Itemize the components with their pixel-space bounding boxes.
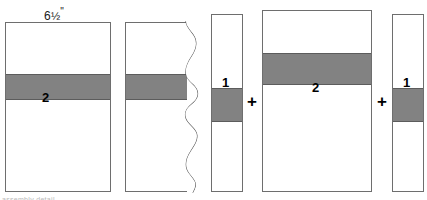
plus-operator-first: + [247,93,257,110]
break-edge-fill-mask [178,21,204,193]
band-layer-1-left [212,88,242,122]
dimension-fraction: ½ [51,10,60,22]
panel-layer-strip-one-right [392,14,424,192]
panel-layer-strip-two [262,10,372,192]
construction-layer-diagram: 6½" 2 1 + 2 + 1 assembly detail [0,0,427,200]
panel-layer-strip-one-left [211,14,243,192]
dimension-label-6-half-inch: 6½" [44,7,64,22]
band-layer-1-right [393,88,423,122]
band-layer-2 [5,74,111,100]
callout-panel4-layer-2: 2 [312,81,319,94]
plus-operator-second: + [377,93,387,110]
figure-caption-cropped: assembly detail [2,196,55,200]
panel-wall-section-full [5,22,111,192]
dimension-unit: " [60,6,64,17]
dimension-whole: 6 [44,9,51,23]
callout-panel3-layer-1: 1 [222,76,229,89]
callout-panel1-layer-2: 2 [42,91,49,104]
callout-panel5-layer-1: 1 [403,76,410,89]
